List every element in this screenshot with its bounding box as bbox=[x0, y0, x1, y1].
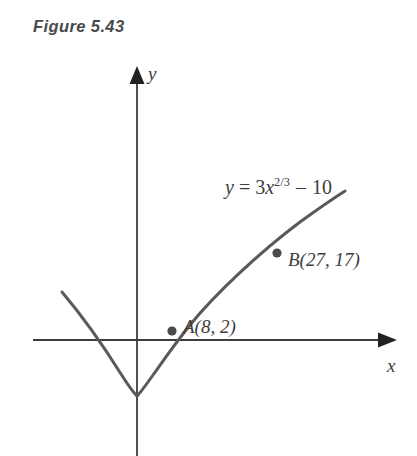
point-marker-b bbox=[272, 248, 281, 257]
curve-equation-label: y=3x2/3–10 bbox=[225, 176, 332, 199]
y-axis-arrowhead bbox=[130, 66, 145, 84]
x-axis-label: x bbox=[387, 355, 395, 377]
y-axis-label: y bbox=[148, 63, 156, 85]
coordinate-plot bbox=[0, 0, 417, 456]
equation-lhs: y bbox=[225, 176, 234, 198]
equation-coefficient: 3 bbox=[255, 176, 265, 198]
figure-container: Figure 5.43 y x y=3x2/3–10 A(8, 2) B(27,… bbox=[0, 0, 417, 456]
equation-exponent: 2/3 bbox=[274, 175, 290, 189]
x-axis-arrowhead bbox=[378, 333, 397, 348]
curve-right-branch bbox=[137, 191, 345, 396]
equation-minus: – bbox=[290, 176, 312, 198]
point-b-label: B(27, 17) bbox=[288, 249, 360, 271]
equation-variable: x bbox=[265, 176, 274, 198]
point-marker-a bbox=[167, 326, 176, 335]
equation-constant: 10 bbox=[312, 176, 332, 198]
point-a-label: A(8, 2) bbox=[183, 316, 236, 338]
equation-equals: = bbox=[234, 176, 255, 198]
curve-left-branch bbox=[62, 292, 137, 396]
